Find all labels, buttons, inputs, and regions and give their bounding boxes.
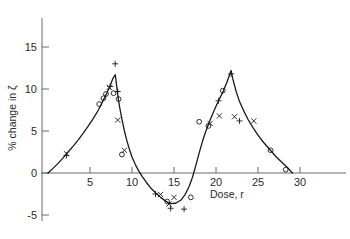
marker-circle bbox=[197, 119, 202, 124]
x-tick-label: 25 bbox=[252, 176, 264, 188]
chart-root: -505101551015202530Dose, r% change in ζ bbox=[0, 0, 350, 239]
y-tick-label: 0 bbox=[31, 167, 37, 179]
marker-circle bbox=[188, 195, 193, 200]
x-tick-label: 10 bbox=[126, 176, 138, 188]
x-tick-label: 5 bbox=[87, 176, 93, 188]
markers-group bbox=[63, 61, 288, 212]
x-axis-title: Dose, r bbox=[210, 188, 244, 200]
y-tick-label: 5 bbox=[31, 125, 37, 137]
x-tick-label: 20 bbox=[210, 176, 222, 188]
x-tick-label: 15 bbox=[168, 176, 180, 188]
x-axis-ticks: 51015202530 bbox=[87, 167, 306, 188]
x-tick-label: 30 bbox=[294, 176, 306, 188]
marker-circle bbox=[283, 167, 288, 172]
axes-group bbox=[41, 18, 346, 221]
dose-response-chart: -505101551015202530Dose, r% change in ζ bbox=[0, 0, 350, 239]
y-tick-label: 10 bbox=[25, 83, 37, 95]
y-axis-title: % change in ζ bbox=[6, 85, 18, 151]
y-tick-label: -5 bbox=[27, 209, 37, 221]
y-tick-label: 15 bbox=[25, 41, 37, 53]
y-axis-ticks: -5051015 bbox=[25, 41, 49, 221]
